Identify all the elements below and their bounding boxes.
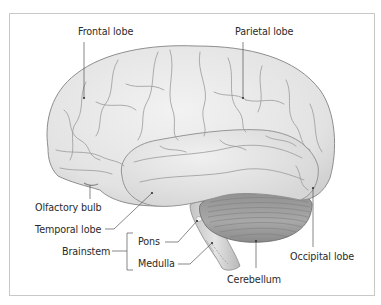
label-olfactory-bulb: Olfactory bulb [35, 202, 102, 213]
label-temporal-lobe: Temporal lobe [35, 224, 101, 235]
cerebellum-marker [255, 240, 257, 242]
occipital-lobe-marker [312, 187, 314, 189]
label-parietal-lobe: Parietal lobe [235, 26, 293, 37]
frontal-lobe-marker [83, 97, 85, 99]
parietal-lobe-marker [242, 97, 244, 99]
label-brainstem: Brainstem [62, 246, 110, 257]
label-medulla: Medulla [138, 258, 175, 269]
label-cerebellum: Cerebellum [227, 274, 281, 285]
cerebrum-shape [47, 46, 335, 207]
label-frontal-lobe: Frontal lobe [78, 26, 133, 37]
temporal-lobe-marker [151, 192, 153, 194]
pons-marker [196, 220, 198, 222]
label-occipital-lobe: Occipital lobe [290, 251, 354, 262]
medulla-marker [211, 242, 213, 244]
label-pons: Pons [138, 236, 160, 247]
